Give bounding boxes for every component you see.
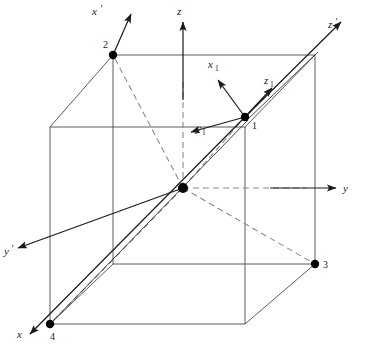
origin-dot [178, 183, 188, 193]
label-y-axis: y [342, 182, 348, 194]
diagonal-to-vertex-2 [113, 55, 183, 188]
axis-z-prime-parallel-stroke [247, 52, 318, 120]
cube-edge-depth-tl [50, 55, 113, 127]
vertex-dot-4 [46, 320, 54, 328]
label-vertex-4: 4 [50, 331, 55, 342]
label-x-prime-mark: ′ [100, 3, 103, 14]
primed-axes [18, 14, 341, 334]
label-z1: z 1 [263, 74, 274, 89]
label-y-prime-text: y [3, 245, 9, 257]
cube-edge-depth-br [245, 264, 315, 324]
label-x1: x 1 [207, 58, 219, 73]
label-z1-subscript: 1 [270, 80, 274, 89]
label-x1-subscript: 1 [215, 64, 219, 73]
label-x-axis: x [16, 328, 22, 340]
cube-edge-depth-bl [50, 264, 113, 324]
axis-z-prime-arrow [245, 22, 341, 117]
label-z-prime: z ′ [327, 16, 338, 30]
local-axes-at-vertex-1 [191, 80, 272, 132]
label-z-prime-text: z [327, 18, 333, 30]
label-vertex-3: 3 [323, 259, 328, 270]
axis-y-prime-arrow [18, 188, 183, 248]
label-vertex-1: 1 [252, 120, 257, 131]
label-x1-text: x [207, 58, 213, 70]
vertex-dot-1 [241, 113, 249, 121]
axis-x-prime-arrow [113, 14, 131, 55]
cube-edge-depth-tr [245, 55, 315, 127]
label-z-axis: z [176, 5, 182, 17]
label-x-prime-text: x [91, 5, 97, 17]
axis-x-parallel-stroke [50, 120, 248, 324]
axis-x-arrow [30, 117, 245, 334]
label-z1-text: z [263, 74, 269, 86]
label-y-prime: y ′ [3, 243, 14, 257]
diagonal-to-vertex-3 [183, 188, 315, 264]
axis-x1-arrow [218, 80, 245, 117]
label-y1: y 1 [195, 122, 206, 137]
cube-axes-diagram: x ′ z z ′ y y ′ x x 1 z 1 y 1 1 2 3 4 [0, 0, 370, 346]
vertex-dot-3 [311, 260, 319, 268]
label-y-prime-mark: ′ [11, 243, 14, 254]
vertex-dot-2 [109, 51, 117, 59]
label-y1-text: y [195, 122, 201, 134]
label-x-prime: x ′ [91, 3, 103, 17]
label-vertex-2: 2 [103, 39, 108, 50]
diagram-figure: x ′ z z ′ y y ′ x x 1 z 1 y 1 1 2 3 4 [0, 0, 370, 346]
label-y1-subscript: 1 [202, 128, 206, 137]
